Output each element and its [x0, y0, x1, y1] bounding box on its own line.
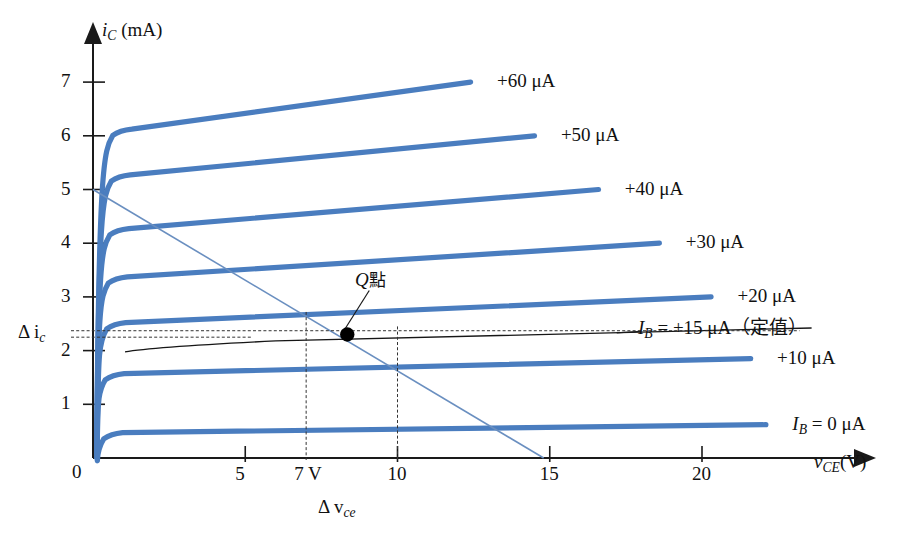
delta-ic-label: Δ ic	[18, 322, 45, 345]
delta-vce-symbol: Δ v	[318, 496, 343, 517]
x-tick-label-5: 5	[235, 464, 245, 483]
x-axis-title: vCE(V)	[814, 452, 866, 475]
curve-label-1: +50 μA	[561, 125, 619, 144]
dc-load-line	[93, 190, 544, 459]
y-tick-label-4: 4	[61, 232, 71, 251]
y-tick-label-3: 3	[61, 286, 71, 305]
x-tick-label-15: 15	[540, 464, 559, 483]
curve-label-5: +10 μA	[777, 348, 835, 367]
characteristic-curve-2	[97, 190, 599, 457]
y-axis-title-subscript: C	[107, 28, 116, 43]
ib-constant-value: = +15 μA（定值）	[653, 317, 808, 338]
curve-label-0: +60 μA	[497, 71, 555, 90]
curve-label-6: IB = 0 μA	[792, 414, 865, 437]
characteristic-curve-figure: iC (mA) vCE(V) 0 Δ ic Δ vce Q點 IB = +15 …	[0, 0, 907, 555]
x-axis-title-unit: (V)	[840, 451, 866, 472]
q-point-label: Q點	[355, 270, 386, 289]
ib-constant-label: IB = +15 μA（定值）	[638, 318, 807, 341]
y-axis-title: iC (mA)	[102, 20, 162, 43]
curve-label-2: +40 μA	[625, 179, 683, 198]
ib-constant-subscript: B	[644, 326, 652, 341]
curve-label-4: +20 μA	[737, 286, 795, 305]
origin-label: 0	[72, 462, 82, 481]
y-axis-arrowhead	[84, 22, 102, 44]
y-tick-label-5: 5	[61, 179, 71, 198]
characteristic-curve-6	[97, 425, 766, 461]
y-tick-label-6: 6	[61, 125, 71, 144]
characteristic-curve-5	[97, 359, 751, 457]
x-tick-label-20: 20	[692, 464, 711, 483]
delta-vce-subscript: ce	[343, 505, 355, 520]
x-tick-label-10: 10	[388, 464, 407, 483]
delta-ic-subscript: c	[39, 330, 45, 345]
delta-ic-symbol: Δ i	[18, 321, 39, 342]
characteristic-curve-1	[97, 136, 535, 457]
curve-label-3: +30 μA	[686, 232, 744, 251]
plot-canvas	[0, 0, 907, 555]
y-axis-title-unit: (mA)	[121, 19, 162, 40]
x-axis-title-subscript: CE	[822, 460, 839, 475]
y-tick-label-2: 2	[61, 340, 71, 359]
delta-vce-label: Δ vce	[318, 497, 356, 520]
q-point-marker	[340, 327, 354, 341]
y-tick-label-1: 1	[61, 393, 71, 412]
x-tick-label-7v: 7 V	[294, 464, 322, 483]
y-tick-label-7: 7	[61, 71, 71, 90]
